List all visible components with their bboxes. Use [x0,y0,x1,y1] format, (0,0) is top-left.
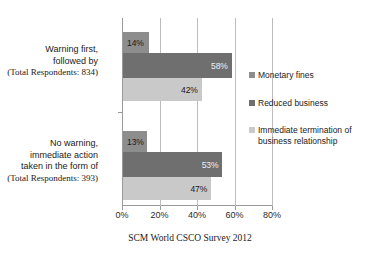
bar-group2-monetary-fines: 13% [123,131,147,152]
category-tick [118,112,122,113]
bar-value-label: 47% [190,184,207,193]
category-label-line: Warning first, [7,44,98,56]
category-label-line: immediate action [7,150,98,162]
category-label-line: No warning, [7,138,98,150]
legend-swatch-icon [249,100,255,106]
category-label-line: followed by [7,56,98,68]
category-respondents: (Total Respondents: 834) [7,67,98,79]
legend-swatch-icon [249,72,255,78]
legend-item-reduced-business: Reduced business [249,98,380,109]
bar-value-label: 42% [181,85,198,94]
legend-swatch-icon [249,127,255,133]
bar-value-label: 58% [211,61,228,70]
legend-label: Monetary fines [258,70,314,81]
bar-value-label: 13% [127,137,144,146]
chart-caption: SCM World CSCO Survey 2012 [0,233,380,243]
legend-item-immediate-termination: Immediate termination of business relati… [249,125,380,146]
x-tick-label-0: 0% [102,210,142,220]
category-respondents: (Total Respondents: 393) [7,173,98,185]
legend-item-monetary-fines: Monetary fines [249,70,380,81]
legend-label: Reduced business [258,98,328,109]
bar-group2-reduced-business: 53% [123,152,222,177]
bar-group1-immediate-termination: 42% [123,78,202,101]
x-tick-label-80: 80% [252,210,292,220]
x-tick-label-20: 20% [140,210,180,220]
bar-chart: 14% 58% 42% 13% 53% 47% 0% 20% 40% 60% 8… [0,0,380,262]
x-tick-label-60: 60% [215,210,255,220]
x-tick-label-40: 40% [177,210,217,220]
gridline-60 [235,18,236,206]
bar-group1-reduced-business: 58% [123,53,232,78]
legend-label: Immediate termination of business relati… [258,125,380,146]
category-label-group2: No warning, immediate action taken in th… [7,138,98,184]
category-label-group1: Warning first, followed by (Total Respon… [7,44,98,79]
chart-legend: Monetary fines Reduced business Immediat… [249,70,380,163]
bar-value-label: 53% [202,160,219,169]
bar-group1-monetary-fines: 14% [123,32,149,53]
category-label-line: taken in the form of [7,161,98,173]
bar-value-label: 14% [127,38,144,47]
bar-group2-immediate-termination: 47% [123,177,211,200]
